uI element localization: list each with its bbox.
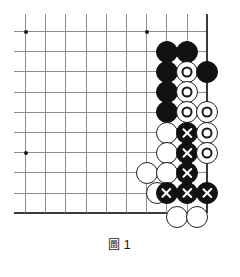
- go-board[interactable]: [0, 0, 240, 235]
- go-stone-black[interactable]: [176, 41, 198, 63]
- go-stone-white[interactable]: [186, 206, 208, 228]
- figure-caption: 圖1: [0, 236, 240, 253]
- go-stone-white[interactable]: [156, 122, 178, 144]
- go-stone-white-marked-circle[interactable]: [176, 61, 198, 83]
- go-stone-white[interactable]: [136, 162, 158, 184]
- circle-mark-icon: [182, 66, 193, 77]
- go-stone-white-marked-circle[interactable]: [176, 101, 198, 123]
- board-grid-line-vertical: [45, 14, 46, 213]
- board-grid-line-vertical: [86, 14, 87, 213]
- go-stone-black[interactable]: [156, 101, 178, 123]
- board-grid-line-horizontal: [14, 31, 207, 32]
- cross-mark-icon: [181, 166, 194, 179]
- cross-mark-icon: [181, 126, 194, 139]
- cross-mark-icon: [181, 146, 194, 159]
- circle-mark-icon: [182, 107, 193, 118]
- go-stone-white[interactable]: [156, 162, 178, 184]
- board-star-point: [145, 30, 149, 34]
- go-stone-white-marked-circle[interactable]: [176, 81, 198, 103]
- board-grid-line-vertical: [65, 14, 66, 213]
- go-stone-white-marked-circle[interactable]: [196, 142, 218, 164]
- go-stone-black-marked-cross[interactable]: [176, 162, 198, 184]
- figure-caption-number: 1: [123, 237, 131, 253]
- board-star-point: [24, 30, 28, 34]
- circle-mark-icon: [202, 127, 213, 138]
- go-stone-white[interactable]: [156, 142, 178, 164]
- board-grid-line-vertical: [25, 14, 26, 213]
- board-star-point: [24, 151, 28, 155]
- figure-caption-symbol: 圖: [108, 237, 121, 253]
- go-stone-black-marked-cross[interactable]: [176, 142, 198, 164]
- go-stone-black[interactable]: [156, 41, 178, 63]
- go-stone-white-marked-circle[interactable]: [196, 101, 218, 123]
- circle-mark-icon: [202, 147, 213, 158]
- go-stone-black[interactable]: [196, 61, 218, 83]
- go-stone-black[interactable]: [156, 81, 178, 103]
- go-stone-black[interactable]: [156, 61, 178, 83]
- circle-mark-icon: [202, 107, 213, 118]
- go-problem-figure: 圖1: [0, 0, 240, 277]
- go-stone-black-marked-cross[interactable]: [196, 182, 218, 204]
- go-stone-black-marked-cross[interactable]: [156, 182, 178, 204]
- cross-mark-icon: [160, 187, 173, 200]
- go-stone-white[interactable]: [166, 206, 188, 228]
- cross-mark-icon: [201, 187, 214, 200]
- board-grid-line-vertical: [106, 14, 107, 213]
- circle-mark-icon: [182, 87, 193, 98]
- go-stone-black-marked-cross[interactable]: [176, 122, 198, 144]
- go-stone-white-marked-circle[interactable]: [196, 122, 218, 144]
- cross-mark-icon: [181, 187, 194, 200]
- board-grid-line-vertical: [126, 14, 127, 213]
- go-stone-black-marked-cross[interactable]: [176, 182, 198, 204]
